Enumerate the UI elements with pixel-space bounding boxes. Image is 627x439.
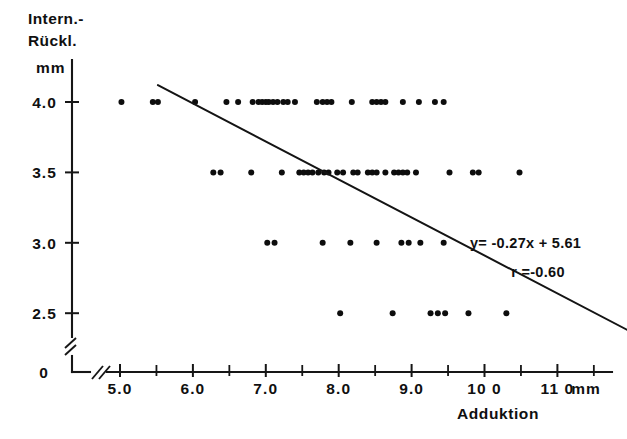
data-point <box>347 240 353 246</box>
data-point <box>235 99 241 105</box>
data-point <box>274 99 280 105</box>
y-tick-label-4: 4.0 <box>32 94 57 111</box>
scatter-plot: Intern.- Rückl. mm 0 2.53.03.54.0 5.06.0… <box>0 0 627 439</box>
x-tick-label-8: 8.0 <box>326 380 351 397</box>
y-axis-title-line1: Intern.- <box>28 10 84 27</box>
x-tick-label-10: 10 0 <box>467 380 502 397</box>
data-point <box>390 310 396 316</box>
data-point <box>248 169 254 175</box>
data-point <box>465 310 471 316</box>
data-point <box>250 99 256 105</box>
x-axis-unit: mm <box>571 380 601 397</box>
data-point <box>447 169 453 175</box>
regression-line <box>158 85 627 330</box>
data-point <box>432 99 438 105</box>
data-point <box>516 169 522 175</box>
data-point <box>264 240 270 246</box>
x-tick-label-7: 7.0 <box>253 380 278 397</box>
x-tick-label-group: 5.06.07.08.09.010 011 0 <box>108 380 575 397</box>
data-point <box>442 310 448 316</box>
data-point <box>416 99 422 105</box>
data-point <box>470 169 476 175</box>
data-point <box>355 169 361 175</box>
data-point <box>374 169 380 175</box>
data-point <box>413 169 419 175</box>
data-point <box>441 99 447 105</box>
origin-label: 0 <box>39 364 49 381</box>
y-tick-label-group: 2.53.03.54.0 <box>32 94 57 322</box>
data-point <box>400 99 406 105</box>
data-point <box>398 240 404 246</box>
data-point <box>272 240 278 246</box>
data-point <box>210 169 216 175</box>
regression-line-group <box>158 85 627 330</box>
y-axis-unit: mm <box>36 59 66 76</box>
data-point <box>441 240 447 246</box>
data-point <box>320 240 326 246</box>
correlation-label: r =-0.60 <box>511 264 565 280</box>
data-point <box>406 240 412 246</box>
data-point <box>309 169 315 175</box>
data-point <box>314 99 320 105</box>
x-tick-label-9: 9.0 <box>399 380 424 397</box>
y-tick-label-3.5: 3.5 <box>32 164 57 181</box>
x-tick-label-5: 5.0 <box>108 380 133 397</box>
data-point <box>340 169 346 175</box>
y-axis-title-line2: Rückl. <box>28 32 77 49</box>
data-point <box>292 99 298 105</box>
x-minor-tick-group <box>156 365 593 376</box>
data-point <box>285 99 291 105</box>
data-point <box>349 99 355 105</box>
y-tick-label-2.5: 2.5 <box>32 305 57 322</box>
data-point <box>476 169 482 175</box>
y-tick-label-3: 3.0 <box>32 235 57 252</box>
data-point <box>404 169 410 175</box>
data-point <box>155 99 161 105</box>
data-point <box>118 99 124 105</box>
x-tick-group <box>120 364 557 377</box>
data-point <box>382 169 388 175</box>
data-point <box>374 240 380 246</box>
x-axis-title: Adduktion <box>457 405 539 422</box>
figure-container: Intern.- Rückl. mm 0 2.53.03.54.0 5.06.0… <box>0 0 627 439</box>
data-point <box>223 99 229 105</box>
data-point <box>428 310 434 316</box>
x-tick-label-11: 11 0 <box>541 380 575 397</box>
regression-equation-label: y= -0.27x + 5.61 <box>470 235 581 251</box>
x-tick-label-6: 6.0 <box>180 380 205 397</box>
data-point <box>337 310 343 316</box>
data-point <box>218 169 224 175</box>
data-point <box>334 169 340 175</box>
data-point-group <box>118 99 522 316</box>
data-point <box>382 99 388 105</box>
data-point <box>503 310 509 316</box>
data-point <box>279 169 285 175</box>
data-point <box>417 240 423 246</box>
data-point <box>435 310 441 316</box>
data-point <box>328 99 334 105</box>
